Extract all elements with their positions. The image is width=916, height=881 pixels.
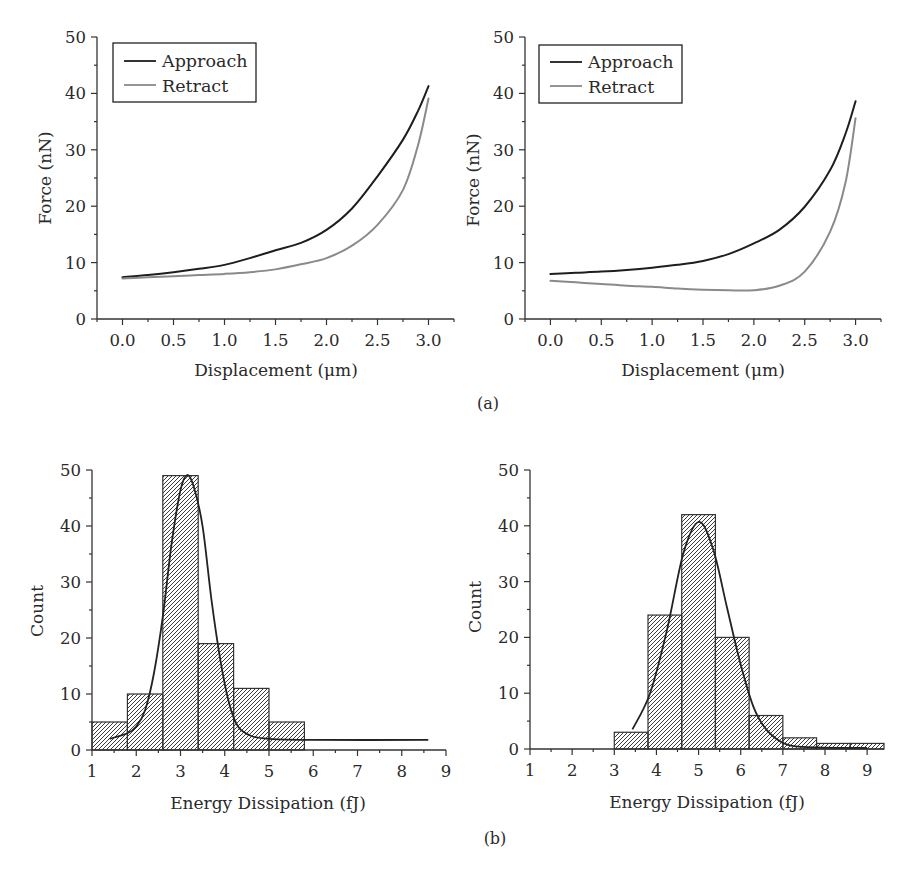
y-tick-label: 40 — [60, 517, 81, 536]
y-tick-label: 50 — [60, 461, 81, 480]
x-tick-label: 0.5 — [160, 331, 186, 350]
histogram-bar — [614, 732, 648, 749]
y-tick-label: 50 — [65, 28, 86, 47]
y-tick-label: 30 — [493, 141, 514, 160]
x-tick-label: 0.5 — [588, 331, 614, 350]
x-tick-label: 0.0 — [537, 331, 563, 350]
y-tick-label: 0 — [509, 740, 520, 759]
legend-retract-label: Retract — [588, 77, 654, 97]
histogram-bar — [715, 637, 749, 749]
y-tick-label: 50 — [498, 461, 519, 480]
x-tick-label: 9 — [441, 762, 452, 781]
x-tick-label: 1.5 — [690, 331, 716, 350]
x-tick-label: 3.0 — [415, 331, 441, 350]
x-tick-label: 2.5 — [792, 331, 818, 350]
legend-retract-label: Retract — [162, 76, 228, 96]
x-tick-label: 0.0 — [109, 331, 135, 350]
y-tick-label: 40 — [493, 84, 514, 103]
y-axis-label: Force (nN) — [35, 131, 55, 224]
x-axis-label: Displacement (μm) — [621, 360, 785, 380]
x-tick-label: 1.0 — [639, 331, 665, 350]
x-tick-label: 6 — [308, 762, 319, 781]
histogram-bar — [127, 694, 162, 750]
histogram-bar — [749, 716, 783, 749]
y-tick-label: 40 — [498, 517, 519, 536]
y-tick-label: 10 — [65, 254, 86, 273]
panel-a-label: (a) — [477, 394, 499, 413]
y-tick-label: 0 — [71, 741, 82, 760]
legend: Approach Retract — [539, 45, 682, 103]
legend-approach-label: Approach — [161, 51, 247, 71]
histogram-bar — [682, 515, 716, 749]
x-tick-label: 9 — [862, 761, 873, 780]
approach-curve — [123, 86, 429, 277]
chart-a-right: 010203040500.00.51.01.52.02.53.0 Force (… — [463, 28, 881, 380]
x-axis-label: Energy Dissipation (fJ) — [609, 792, 805, 812]
x-tick-label: 5 — [264, 762, 275, 781]
figure-page: 010203040500.00.51.01.52.02.53.0 Force (… — [0, 0, 916, 881]
y-tick-label: 10 — [498, 684, 519, 703]
y-tick-label: 20 — [60, 629, 81, 648]
x-tick-label: 1.0 — [211, 331, 237, 350]
x-tick-label: 4 — [220, 762, 231, 781]
chart-b-left: 01020304050123456789 Count Energy Dissip… — [27, 461, 451, 813]
y-tick-label: 40 — [65, 84, 86, 103]
y-tick-label: 20 — [65, 197, 86, 216]
y-tick-label: 30 — [60, 573, 81, 592]
y-tick-label: 30 — [498, 573, 519, 592]
chart-a-left: 010203040500.00.51.01.52.02.53.0 Force (… — [35, 28, 454, 380]
approach-curve — [550, 101, 855, 274]
y-tick-label: 20 — [498, 628, 519, 647]
y-axis-label: Force (nN) — [463, 133, 483, 226]
x-tick-label: 2.0 — [313, 331, 339, 350]
x-tick-label: 6 — [735, 761, 746, 780]
x-tick-label: 8 — [397, 762, 408, 781]
panel-b-label: (b) — [484, 829, 507, 848]
x-tick-label: 8 — [820, 761, 831, 780]
y-tick-label: 20 — [493, 197, 514, 216]
x-tick-label: 2 — [567, 761, 578, 780]
x-tick-label: 1 — [87, 762, 98, 781]
x-tick-label: 3.0 — [842, 331, 868, 350]
x-tick-label: 2 — [131, 762, 142, 781]
x-tick-label: 7 — [352, 762, 363, 781]
y-tick-label: 0 — [76, 310, 87, 329]
x-tick-label: 3 — [175, 762, 186, 781]
histogram-bar — [234, 688, 269, 750]
legend: Approach Retract — [113, 43, 256, 102]
x-tick-label: 5 — [693, 761, 704, 780]
x-tick-label: 7 — [778, 761, 789, 780]
plot-area: 01020304050123456789 — [498, 461, 884, 780]
y-tick-label: 0 — [504, 310, 515, 329]
chart-b-right: 01020304050123456789 Count Energy Dissip… — [465, 461, 884, 812]
legend-approach-label: Approach — [587, 52, 673, 72]
plot-area: 01020304050123456789 — [60, 461, 451, 781]
x-tick-label: 3 — [609, 761, 620, 780]
x-tick-label: 2.0 — [741, 331, 767, 350]
retract-curve — [550, 118, 855, 290]
x-tick-label: 2.5 — [364, 331, 390, 350]
y-axis-label: Count — [465, 581, 485, 633]
x-axis-label: Energy Dissipation (fJ) — [170, 793, 366, 813]
y-axis-label: Count — [27, 585, 47, 637]
x-tick-label: 1 — [525, 761, 536, 780]
figure-canvas: 010203040500.00.51.01.52.02.53.0 Force (… — [0, 0, 916, 881]
x-tick-label: 1.5 — [262, 331, 288, 350]
y-tick-label: 50 — [493, 28, 514, 47]
histogram-bar — [163, 476, 198, 750]
y-tick-label: 30 — [65, 141, 86, 160]
x-axis-label: Displacement (μm) — [194, 360, 358, 380]
retract-curve — [123, 98, 429, 278]
y-tick-label: 10 — [60, 685, 81, 704]
histogram-bar — [269, 722, 304, 750]
y-tick-label: 10 — [493, 254, 514, 273]
x-tick-label: 4 — [651, 761, 662, 780]
